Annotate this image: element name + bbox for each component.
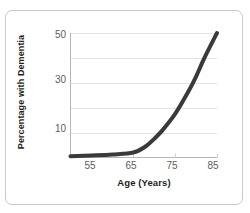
axis-lines [71, 33, 218, 158]
plot-canvas [0, 0, 250, 213]
gridlines [71, 34, 218, 134]
dementia-curve [71, 33, 218, 156]
dementia-age-line-chart: Percentage with Dementia Age (Years) 50 … [0, 0, 250, 213]
